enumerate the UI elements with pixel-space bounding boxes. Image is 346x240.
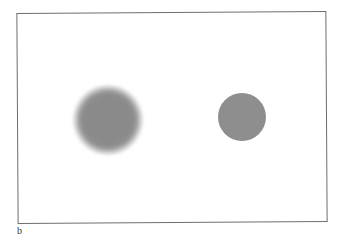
sharp-disk: [218, 93, 266, 141]
figure-frame: [16, 11, 327, 224]
blurred-disk: [77, 89, 139, 151]
panel-label: b: [17, 226, 22, 236]
